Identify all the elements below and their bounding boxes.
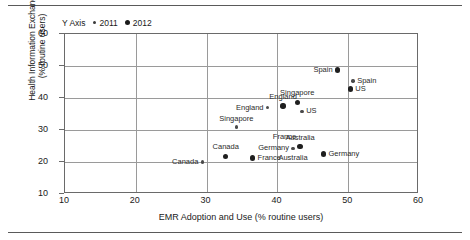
x-axis-title: EMR Adoption and Use (% routine users) — [64, 212, 418, 222]
plot-area: CanadaSingaporeEnglandGermanyUSSpainFran… — [64, 33, 418, 193]
gridline-vertical — [277, 34, 278, 192]
data-point[interactable] — [348, 86, 353, 91]
y-axis-tick-mark — [59, 33, 64, 34]
figure-container: Y Axis 2011 2012 Health Information Exch… — [0, 0, 470, 240]
data-point[interactable] — [266, 106, 269, 109]
y-axis-tick-label: 60 — [22, 29, 48, 38]
data-point[interactable] — [300, 110, 303, 113]
legend-entry-2012[interactable]: 2012 — [125, 18, 152, 28]
data-point[interactable] — [250, 155, 255, 160]
data-point[interactable] — [291, 147, 294, 150]
gridline-horizontal — [65, 66, 417, 67]
x-axis-tick-label: 40 — [261, 196, 291, 205]
y-axis-tick-mark — [59, 97, 64, 98]
data-point[interactable] — [295, 100, 300, 105]
chart-annotation-label: Australia — [278, 154, 307, 162]
data-point-label: England — [236, 104, 264, 112]
data-point-label: Singapore — [219, 115, 253, 123]
chart-annotation-label: France — [273, 133, 296, 141]
y-axis-tick-label: 40 — [22, 93, 48, 102]
data-point[interactable] — [223, 154, 228, 159]
y-axis-tick-label: 30 — [22, 125, 48, 134]
legend-entry-2011[interactable]: 2011 — [93, 18, 117, 28]
data-point-label: Germany — [328, 150, 359, 158]
top-divider-rule — [8, 5, 462, 6]
data-point[interactable] — [297, 144, 302, 149]
gridline-horizontal — [65, 98, 417, 99]
data-point-label: US — [355, 85, 365, 93]
data-point[interactable] — [201, 160, 204, 163]
y-axis-tick-label: 10 — [22, 189, 48, 198]
gridline-vertical — [207, 34, 208, 192]
data-point-label: Spain — [313, 66, 332, 74]
data-point[interactable] — [280, 103, 285, 108]
legend-title: Y Axis — [62, 18, 85, 28]
y-axis-tick-label: 20 — [22, 157, 48, 166]
chart-legend: Y Axis 2011 2012 — [62, 16, 154, 29]
data-point-label: Canada — [172, 158, 198, 166]
data-point-label: US — [306, 107, 316, 115]
y-axis-tick-label: 50 — [22, 61, 48, 70]
data-point-label: Singapore — [280, 89, 314, 97]
gridline-horizontal — [65, 162, 417, 163]
gridline-vertical — [348, 34, 349, 192]
y-axis-tick-mark — [59, 193, 64, 194]
legend-label-2012: 2012 — [133, 18, 152, 28]
small-dot-icon — [93, 21, 96, 24]
data-point-label: Canada — [213, 143, 239, 151]
legend-label-2011: 2011 — [99, 18, 117, 28]
gridline-horizontal — [65, 130, 417, 131]
data-point-label: Germany — [258, 144, 289, 152]
x-axis-tick-label: 10 — [49, 196, 79, 205]
data-point[interactable] — [351, 79, 354, 82]
gridline-vertical — [136, 34, 137, 192]
y-axis-tick-mark — [59, 65, 64, 66]
y-axis-tick-mark — [59, 161, 64, 162]
data-point[interactable] — [321, 151, 326, 156]
large-dot-icon — [125, 20, 130, 25]
x-axis-tick-label: 50 — [332, 196, 362, 205]
x-axis-tick-label: 30 — [191, 196, 221, 205]
x-axis-tick-label: 20 — [120, 196, 150, 205]
data-point[interactable] — [335, 67, 340, 72]
data-point[interactable] — [235, 125, 238, 128]
x-axis-tick-label: 60 — [403, 196, 433, 205]
bottom-divider-rule — [8, 232, 462, 233]
y-axis-tick-mark — [59, 129, 64, 130]
